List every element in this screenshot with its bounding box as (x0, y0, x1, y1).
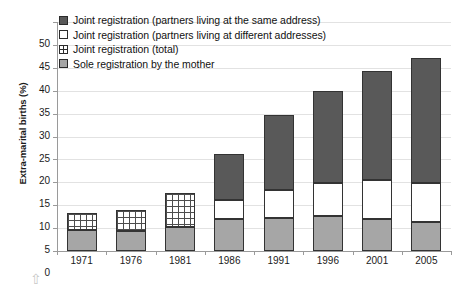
legend-item[interactable]: Joint registration (partners living at d… (59, 28, 389, 43)
y-tick-mark (53, 228, 57, 229)
y-tick-mark (53, 91, 57, 92)
y-tick-label: 35 (28, 108, 50, 118)
y-axis-title: Extra-marital births (%) (17, 49, 28, 219)
y-tick-mark (53, 182, 57, 183)
y-tick-mark (53, 22, 57, 23)
chart-legend: Joint registration (partners living at t… (59, 13, 389, 71)
y-tick-mark (53, 68, 57, 69)
legend-item[interactable]: Joint registration (total) (59, 42, 389, 57)
y-tick-label: 5 (28, 245, 50, 255)
x-axis-tick-labels: 19711976198119861991199620012005 (57, 255, 451, 271)
bar-segment-joint-different[interactable] (264, 190, 294, 217)
x-tick-label-1971: 1971 (58, 255, 106, 266)
y-tick-label: 50 (28, 39, 50, 49)
y-axis-tick-labels: 05101520253035404550 (28, 22, 50, 251)
bar-segment-joint-same[interactable] (411, 58, 441, 183)
chart-container: Extra-marital births (%) 051015202530354… (0, 0, 465, 296)
bar-segment-joint-different[interactable] (362, 180, 392, 219)
x-tick-mark (451, 251, 452, 255)
up-arrow-icon: ⇧ (30, 272, 42, 286)
bar-segment-joint-same[interactable] (264, 115, 294, 191)
y-tick-label: 25 (28, 154, 50, 164)
y-tick-label: 30 (28, 131, 50, 141)
bar-group[interactable] (411, 22, 441, 251)
legend-swatch-dark-icon (59, 16, 68, 25)
legend-swatch-white-icon (59, 30, 68, 39)
bar-segment-joint-same[interactable] (362, 71, 392, 180)
legend-swatch-hatch-icon (59, 45, 68, 54)
bar-segment-joint-different[interactable] (214, 200, 244, 219)
y-tick-mark (53, 159, 57, 160)
legend-item[interactable]: Sole registration by the mother (59, 57, 389, 72)
bar-segment-joint-total[interactable] (67, 213, 97, 230)
y-tick-label: 10 (28, 222, 50, 232)
y-tick-label: 40 (28, 85, 50, 95)
x-tick-label-1991: 1991 (255, 255, 303, 266)
x-tick-label-1981: 1981 (156, 255, 204, 266)
x-tick-label-2005: 2005 (402, 255, 450, 266)
legend-item-label: Joint registration (partners living at t… (73, 14, 321, 26)
y-tick-mark (53, 45, 57, 46)
bar-segment-joint-total[interactable] (165, 193, 195, 227)
bar-segment-joint-same[interactable] (313, 91, 343, 184)
legend-item[interactable]: Joint registration (partners living at t… (59, 13, 389, 28)
y-tick-mark (53, 137, 57, 138)
x-tick-label-1986: 1986 (205, 255, 253, 266)
bar-segment-sole[interactable] (116, 231, 146, 251)
bar-segment-sole[interactable] (165, 227, 195, 251)
bar-segment-joint-total[interactable] (116, 210, 146, 231)
bar-segment-sole[interactable] (362, 219, 392, 251)
y-tick-mark (53, 114, 57, 115)
bar-segment-sole[interactable] (264, 218, 294, 251)
bar-segment-sole[interactable] (214, 219, 244, 251)
legend-item-label: Joint registration (partners living at d… (73, 29, 326, 41)
x-tick-label-2001: 2001 (353, 255, 401, 266)
bar-segment-sole[interactable] (411, 222, 441, 251)
x-tick-label-1976: 1976 (107, 255, 155, 266)
legend-swatch-light-icon (59, 59, 68, 68)
y-tick-label: 45 (28, 62, 50, 72)
bar-segment-joint-different[interactable] (411, 183, 441, 222)
bar-segment-joint-same[interactable] (214, 154, 244, 200)
y-tick-mark (53, 205, 57, 206)
bar-segment-sole[interactable] (313, 216, 343, 251)
x-tick-label-1996: 1996 (304, 255, 352, 266)
bar-segment-joint-different[interactable] (313, 183, 343, 216)
y-tick-label: 20 (28, 176, 50, 186)
legend-item-label: Joint registration (total) (73, 43, 179, 55)
bar-segment-sole[interactable] (67, 230, 97, 251)
legend-item-label: Sole registration by the mother (73, 58, 214, 70)
y-tick-label: 15 (28, 199, 50, 209)
